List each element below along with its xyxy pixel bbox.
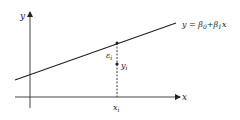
observed-y-label: yi — [120, 61, 128, 71]
regression-diagram: y x y = β0+β1x εi yi xi — [0, 0, 240, 120]
error-label: εi — [106, 51, 112, 61]
y-axis-label: y — [19, 11, 26, 21]
fitted-point — [116, 42, 119, 45]
observed-x-label: xi — [113, 103, 120, 113]
observed-point — [115, 62, 118, 65]
x-axis-label: x — [182, 92, 187, 102]
regression-line — [15, 23, 176, 80]
regression-equation: y = β0+β1x — [181, 20, 227, 30]
